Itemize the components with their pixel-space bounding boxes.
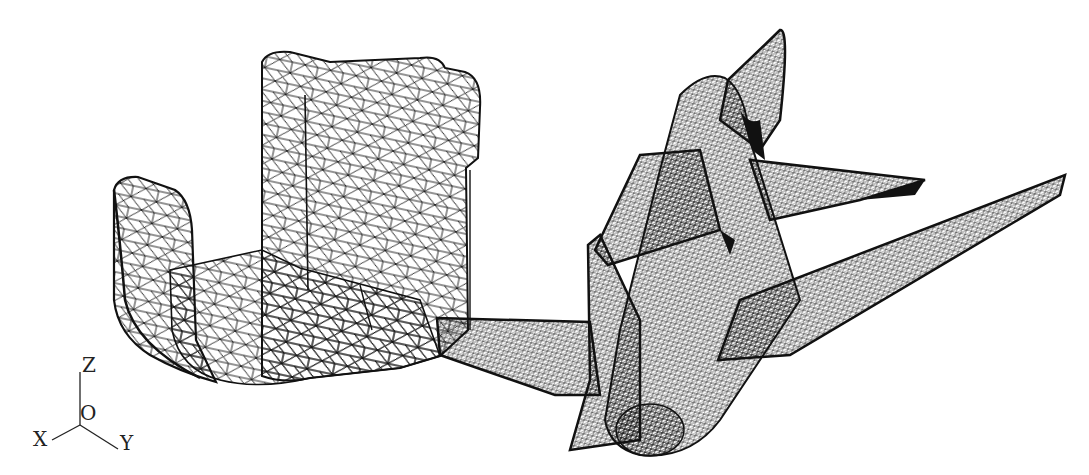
- axis-origin-label: O: [80, 401, 96, 425]
- bracket-mesh: [114, 52, 480, 385]
- axis-z-label: Z: [82, 353, 96, 377]
- mesh-figure: Z O X Y: [0, 0, 1089, 475]
- airplane-mesh: [437, 30, 1065, 456]
- axis-triad: Z O X Y: [33, 353, 134, 455]
- axis-x-label: X: [33, 427, 48, 451]
- axis-y-label: Y: [119, 431, 134, 455]
